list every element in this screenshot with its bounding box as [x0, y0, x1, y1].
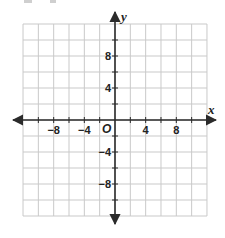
x-tick-label: −4 [78, 124, 91, 136]
origin-label: O [102, 122, 112, 136]
axes [13, 12, 216, 224]
x-tick-label: 4 [143, 124, 150, 136]
y-tick-label: −8 [98, 178, 111, 190]
x-axis-label: x [207, 102, 215, 117]
y-tick-label: −4 [98, 146, 111, 158]
x-tick-label: −8 [47, 124, 60, 136]
y-axis-label: y [119, 9, 127, 24]
x-tick-label: 8 [173, 124, 179, 136]
coordinate-plane: −8−44884−4−8 x y O [0, 0, 225, 238]
y-tick-label: 8 [105, 50, 111, 62]
y-tick-label: 4 [105, 82, 112, 94]
